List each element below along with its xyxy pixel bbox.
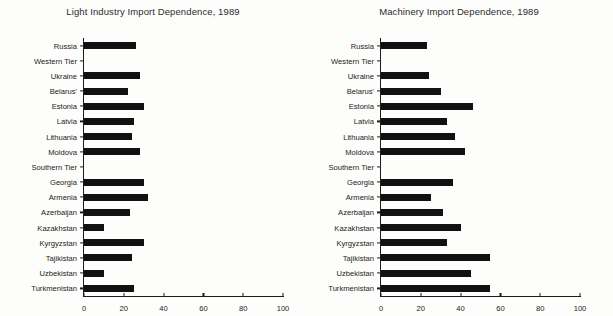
bar <box>381 254 490 261</box>
y-axis-label: Belarus' <box>347 87 374 96</box>
bar <box>84 103 144 110</box>
y-axis-label: Uzbekistan <box>39 269 77 278</box>
x-axis-tick-label: 100 <box>574 304 587 313</box>
y-axis-tick <box>377 166 381 167</box>
x-axis-tick <box>540 293 541 298</box>
x-axis-tick-label: 20 <box>120 304 128 313</box>
bar <box>381 239 447 246</box>
y-axis-label: Belarus' <box>50 87 77 96</box>
bar-row: Kyrgyzstan <box>381 235 580 250</box>
x-axis-tick-label: 0 <box>82 304 86 313</box>
bar-row: Armenia <box>84 190 283 205</box>
x-axis-tick <box>460 293 461 298</box>
x-axis-tick <box>420 293 421 298</box>
bar-row: Georgia <box>84 175 283 190</box>
bar-row: Southern Tier <box>381 159 580 174</box>
bar-row: Latvia <box>381 114 580 129</box>
bar <box>381 103 473 110</box>
bar <box>381 118 447 125</box>
plot-area-light-industry: RussiaWestern TierUkraineBelarus'Estonia… <box>84 38 283 296</box>
y-axis-tick <box>377 60 381 61</box>
bar <box>84 133 132 140</box>
bar <box>381 179 453 186</box>
chart-title-machinery: Machinery Import Dependence, 1989 <box>306 6 612 17</box>
bar <box>84 88 128 95</box>
x-axis-tick-label: 60 <box>199 304 207 313</box>
bar <box>381 224 461 231</box>
bar <box>84 239 144 246</box>
y-axis-label: Lithuania <box>46 132 77 141</box>
bar-row: Turkmenistan <box>381 281 580 296</box>
y-axis-label: Georgia <box>50 178 77 187</box>
x-axis-tick <box>283 293 284 298</box>
bar-row: Kazakhstan <box>381 220 580 235</box>
y-axis-tick <box>80 166 84 167</box>
x-axis-tick <box>84 293 85 298</box>
bar <box>84 42 136 49</box>
y-axis-label: Ukraine <box>348 71 374 80</box>
y-axis-label: Kyrgyzstan <box>336 238 374 247</box>
bar-rows-light-industry: RussiaWestern TierUkraineBelarus'Estonia… <box>84 38 283 296</box>
bar <box>84 148 140 155</box>
y-axis-label: Uzbekistan <box>336 269 374 278</box>
bar-row: Belarus' <box>84 84 283 99</box>
x-axis-tick-label: 0 <box>379 304 383 313</box>
y-axis-label: Moldova <box>48 147 77 156</box>
y-axis-tick <box>80 60 84 61</box>
plot-area-machinery: RussiaWestern TierUkraineBelarus'Estonia… <box>381 38 580 296</box>
y-axis-label: Russia <box>351 41 374 50</box>
bar <box>84 179 144 186</box>
x-axis-tick <box>381 293 382 298</box>
bar <box>381 148 465 155</box>
x-axis-tick-label: 100 <box>277 304 290 313</box>
x-axis-tick <box>163 293 164 298</box>
y-axis-label: Kazakhstan <box>334 223 374 232</box>
bar-row: Russia <box>381 38 580 53</box>
bar <box>381 72 429 79</box>
y-axis-label: Estonia <box>52 102 77 111</box>
bar <box>381 133 455 140</box>
bar-row: Western Tier <box>84 53 283 68</box>
y-axis-label: Armenia <box>346 193 374 202</box>
y-axis-label: Lithuania <box>343 132 374 141</box>
bar <box>84 209 130 216</box>
y-axis-label: Moldova <box>345 147 374 156</box>
bar-row: Western Tier <box>381 53 580 68</box>
bar-row: Russia <box>84 38 283 53</box>
bar-row: Tajikistan <box>381 250 580 265</box>
chart-light-industry: Light Industry Import Dependence, 1989 R… <box>0 0 306 316</box>
bar <box>381 88 441 95</box>
y-axis-label: Ukraine <box>51 71 77 80</box>
y-axis-label: Latvia <box>354 117 374 126</box>
y-axis-label: Kazakhstan <box>37 223 77 232</box>
bar-row: Estonia <box>84 99 283 114</box>
bar-row: Estonia <box>381 99 580 114</box>
bar-row: Armenia <box>381 190 580 205</box>
bar-row: Kazakhstan <box>84 220 283 235</box>
y-axis-label: Russia <box>54 41 77 50</box>
bar <box>84 224 104 231</box>
bar <box>84 285 134 292</box>
bar-row: Moldova <box>381 144 580 159</box>
y-axis-label: Turkmenistan <box>328 284 374 293</box>
y-axis-label: Southern Tier <box>31 162 77 171</box>
chart-machinery: Machinery Import Dependence, 1989 Russia… <box>306 0 612 316</box>
y-axis-label: Western Tier <box>34 56 77 65</box>
chart-title-light-industry: Light Industry Import Dependence, 1989 <box>0 6 306 17</box>
y-axis-label: Tajikistan <box>343 253 374 262</box>
y-axis-label: Estonia <box>349 102 374 111</box>
y-axis-label: Southern Tier <box>328 162 374 171</box>
x-axis-tick <box>203 293 204 298</box>
bar <box>381 209 443 216</box>
x-axis-tick-label: 80 <box>239 304 247 313</box>
y-axis-label: Western Tier <box>331 56 374 65</box>
y-axis-label: Latvia <box>57 117 77 126</box>
bar <box>84 118 134 125</box>
bar-row: Turkmenistan <box>84 281 283 296</box>
bar <box>84 254 132 261</box>
y-axis-label: Armenia <box>49 193 77 202</box>
bar <box>84 270 104 277</box>
bar <box>84 72 140 79</box>
x-axis-tick-label: 80 <box>536 304 544 313</box>
x-axis-tick-label: 40 <box>456 304 464 313</box>
